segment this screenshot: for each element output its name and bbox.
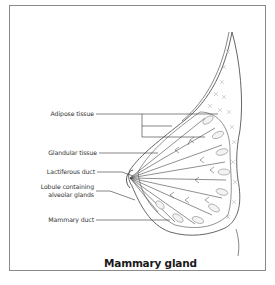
- label-lactiferous-duct: Lactiferous duct: [47, 168, 95, 175]
- breast-anatomy-illustration: [0, 0, 275, 285]
- label-glandular-tissue: Glandular tissue: [48, 149, 97, 156]
- lobule-icon: [154, 114, 230, 225]
- diagram-title: Mammary gland: [104, 257, 197, 269]
- label-lobule-line2: alveolar glands: [48, 191, 94, 198]
- label-mammary-duct: Mammary duct: [48, 216, 94, 223]
- label-adipose-tissue: Adipose tissue: [51, 110, 94, 117]
- label-lobule-line1: Lobule containing: [41, 183, 94, 190]
